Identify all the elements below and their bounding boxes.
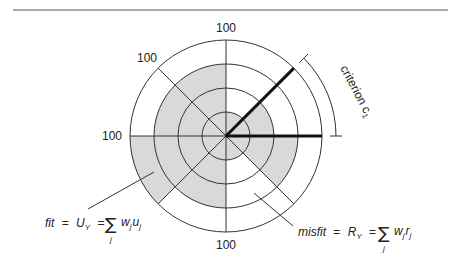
criterion-arc xyxy=(304,58,336,136)
criterion-label: criterion c1 xyxy=(336,63,377,121)
svg-text:wjrj: wjrj xyxy=(394,224,411,240)
svg-text:fit = UY =: fit = UY = xyxy=(45,216,104,233)
axis-label-top: 100 xyxy=(216,21,236,35)
fit-pointer xyxy=(88,172,154,209)
misfit-equation: misfit = RY = ∑ j wjrj xyxy=(298,223,411,253)
svg-text:j: j xyxy=(109,235,112,244)
axis-label-bottom: 100 xyxy=(216,238,236,252)
axis-label-left: 100 xyxy=(102,129,122,143)
svg-text:∑: ∑ xyxy=(378,223,390,243)
sector-315-360 xyxy=(226,136,298,187)
svg-text:wjuj: wjuj xyxy=(121,215,141,231)
svg-text:∑: ∑ xyxy=(105,214,117,234)
svg-text:misfit = RY: misfit = RY = xyxy=(298,225,376,242)
fit-diagram: criterion c1 100 100 100 100 fit = UY = … xyxy=(0,0,459,271)
svg-text:j: j xyxy=(382,244,385,253)
fit-equation: fit = UY = ∑ j wjuj xyxy=(45,214,141,244)
axis-label-upper-left: 100 xyxy=(137,51,157,65)
